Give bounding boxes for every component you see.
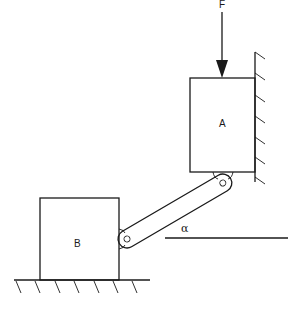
force-label: F bbox=[219, 0, 225, 10]
ground bbox=[14, 280, 150, 293]
pin-a-icon bbox=[219, 179, 227, 187]
ground-hatching bbox=[16, 281, 137, 293]
wall-hatching bbox=[255, 52, 265, 184]
mechanism-diagram: F A B bbox=[0, 0, 295, 309]
angle-label: α bbox=[181, 222, 189, 235]
block-b-label: B bbox=[74, 238, 81, 249]
pin-b-icon bbox=[123, 235, 131, 243]
force-arrow bbox=[216, 12, 228, 78]
arrowhead-icon bbox=[216, 60, 228, 78]
vertical-wall bbox=[255, 52, 265, 184]
rigid-link bbox=[115, 171, 235, 252]
block-a-label: A bbox=[219, 118, 226, 129]
